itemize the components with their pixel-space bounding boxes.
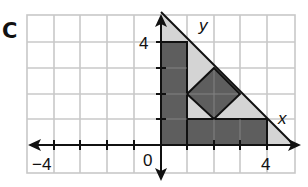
origin-label: 0: [143, 151, 152, 170]
dark-rect-horizontal: [187, 119, 267, 145]
x-axis-label: x: [277, 109, 287, 128]
x-tick-label-4: 4: [261, 155, 270, 174]
y-tick-label-4: 4: [139, 34, 148, 53]
x-tick-label-neg4: −4: [32, 155, 51, 174]
y-axis-label: y: [198, 16, 209, 35]
coordinate-plane: y x 4 −4 0 4: [0, 0, 308, 187]
